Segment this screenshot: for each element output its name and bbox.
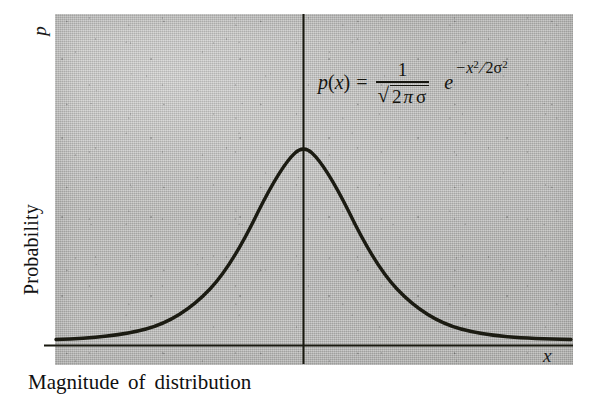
formula-close-paren: ) <box>344 71 351 94</box>
y-axis-title: Probability <box>20 175 43 325</box>
exponent-variable: x <box>466 59 473 77</box>
formula-denominator: √ 2πσ <box>376 83 430 106</box>
exponent-den-power: 2 <box>502 58 508 70</box>
formula-den-pi: π <box>404 86 414 107</box>
x-axis-symbol: x <box>543 345 551 367</box>
exponent-minus: − <box>456 59 465 77</box>
formula-equals: = <box>356 71 367 94</box>
formula-argument: x <box>335 71 344 94</box>
x-axis-title-word-2: of <box>128 370 146 394</box>
radical-sign-icon: √ <box>378 85 390 106</box>
x-axis-title-word-1: Magnitude <box>28 370 119 394</box>
figure-root: p x Probability Magnitudeofdistribution … <box>0 0 595 407</box>
formula-exponent: −x2/2σ2 <box>456 58 508 78</box>
exponent-variable-power: 2 <box>473 58 479 70</box>
y-axis-symbol: p <box>29 18 51 44</box>
formula-e: e <box>444 71 453 94</box>
formula-numerator: 1 <box>389 60 417 81</box>
formula-annotation: p(x) = 1 √ 2πσ e −x2/2σ2 <box>318 60 505 106</box>
formula-fraction: 1 √ 2πσ <box>376 60 430 106</box>
formula-exponential: e −x2/2σ2 <box>444 71 504 94</box>
formula-den-sigma: σ <box>416 86 426 107</box>
formula-den-two: 2 <box>392 86 402 107</box>
radical-content: 2πσ <box>390 85 429 106</box>
exponent-den-sigma: σ <box>494 59 503 77</box>
x-axis-title: Magnitudeofdistribution <box>28 370 251 395</box>
formula-p: p <box>318 71 328 94</box>
formula-radical: √ 2πσ <box>376 85 430 106</box>
formula-open-paren: ( <box>328 71 335 94</box>
x-axis-title-word-3: distribution <box>154 370 251 394</box>
